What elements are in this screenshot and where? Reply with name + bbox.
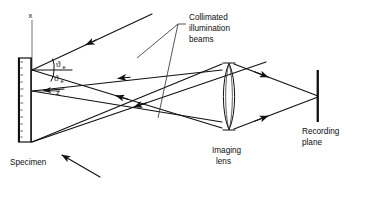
specimen-pointer-arrow bbox=[62, 155, 100, 177]
collimated-label-line1: Collimated bbox=[189, 13, 228, 22]
imaging-lens-label-line2: lens bbox=[216, 157, 231, 166]
specimen-left-edge bbox=[18, 58, 20, 142]
collimated-illumination-beams-label: Collimated illumination beams bbox=[189, 13, 230, 44]
lens-left-surface bbox=[223, 63, 229, 130]
incoming-beam-lower-arrow bbox=[134, 103, 146, 107]
recording-plane-label-line2: plane bbox=[302, 138, 322, 147]
angle-upper-subscript: e bbox=[63, 64, 66, 70]
converging-arrow-lower bbox=[255, 116, 268, 121]
scattered-arrow-2 bbox=[118, 77, 130, 78]
specimen-label-text: Specimen bbox=[10, 158, 47, 167]
scattered-ray-4 bbox=[32, 64, 222, 142]
specimen-slab bbox=[18, 58, 31, 142]
scattered-ray-3 bbox=[32, 91, 222, 122]
collimated-label-line3: beams bbox=[189, 35, 214, 44]
converging-ray-upper bbox=[234, 64, 318, 96]
imaging-lens-label-line1: Imaging bbox=[212, 146, 242, 155]
collimated-label-line2: illumination bbox=[189, 24, 230, 33]
diagram-canvas: x z bbox=[0, 0, 365, 199]
angle-upper-symbol: ϑ bbox=[56, 59, 61, 69]
specimen-pointer-line bbox=[62, 155, 100, 177]
x-axis-label: x bbox=[29, 11, 33, 20]
scattered-arrow-1 bbox=[116, 96, 128, 100]
converging-ray-lower bbox=[234, 97, 318, 129]
imaging-lens-label: Imaging lens bbox=[212, 146, 242, 166]
recording-plane-bar bbox=[317, 70, 319, 122]
recording-plane-label: Recording plane bbox=[302, 127, 340, 147]
optical-diagram: x z bbox=[0, 0, 365, 199]
angle-label-upper: ϑ e bbox=[56, 59, 66, 70]
incoming-beam-upper-arrow bbox=[86, 40, 96, 45]
recording-plane-body bbox=[317, 70, 319, 122]
scattered-ray-bundle bbox=[32, 64, 222, 142]
angle-arcs-upper bbox=[32, 59, 72, 82]
specimen-label: Specimen bbox=[10, 158, 47, 167]
converging-ray-bundle bbox=[234, 64, 318, 129]
recording-plane-label-line1: Recording bbox=[302, 127, 340, 136]
converging-arrow-upper bbox=[255, 72, 268, 77]
specimen-body bbox=[19, 58, 32, 142]
incoming-beam-upper bbox=[32, 14, 152, 70]
